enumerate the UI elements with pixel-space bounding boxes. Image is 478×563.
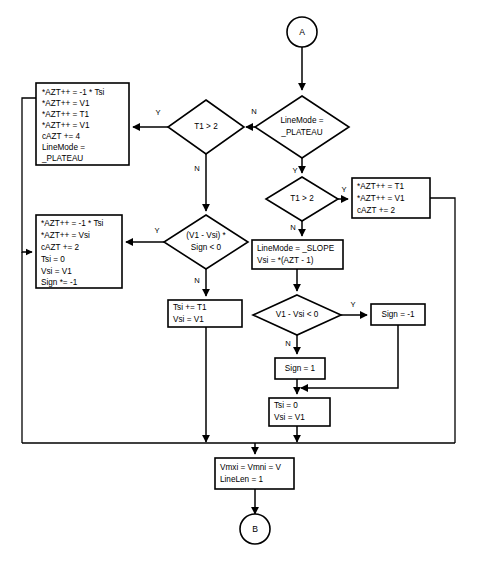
process-slope-block-line-3: Tsi = 0: [41, 255, 65, 264]
process-plateau-block-line-3: *AZT++ = V1: [42, 121, 90, 130]
process-tsi-plus-t1-line-1: Vsi = V1: [173, 315, 204, 324]
edge-right-bus-down: [430, 198, 455, 443]
terminal-a-label: A: [299, 27, 305, 37]
edge-plateau-feedback-left: [22, 98, 36, 252]
process-tsi-plus-t1-line-0: Tsi += T1: [173, 303, 207, 312]
terminal-a[interactable]: A: [287, 17, 317, 47]
process-slope-block-line-4: Vsi = V1: [41, 267, 72, 276]
edge-label-t1left-y: Y: [155, 108, 160, 117]
process-sign-neg1[interactable]: Sign = -1: [371, 304, 425, 325]
process-azt-t1-v1-line-2: cAZT += 2: [357, 206, 396, 215]
process-set-slope-line-1: Vsi = *(AZT - 1): [257, 256, 314, 265]
process-vmxi-linelen-line-1: LineLen = 1: [220, 475, 263, 484]
decision-linemode-plateau-line-1: _PLATEAU: [280, 128, 322, 137]
flowchart-page: A LineMode = _PLATEAU T1 > 2 T1 > 2 (V1 …: [0, 0, 478, 563]
decision-t1-gt2-left-line-0: T1 > 2: [194, 122, 218, 131]
process-plateau-block-line-0: *AZT++ = -1 * Tsi: [42, 88, 105, 97]
process-slope-block[interactable]: *AZT++ = -1 * Tsi *AZT++ = Vsi cAZT += 2…: [36, 215, 122, 288]
process-sign-1-line-0: Sign = 1: [285, 364, 316, 373]
edge-label-t1inner-y: Y: [341, 185, 346, 194]
terminal-b[interactable]: B: [240, 514, 270, 544]
process-sign-neg1-line-0: Sign = -1: [382, 310, 415, 319]
decision-v1-vsi-sign-line-0: (V1 - Vsi) *: [186, 231, 226, 240]
process-slope-block-line-2: cAZT += 2: [41, 243, 80, 252]
edge-label-v1vsi-y: Y: [350, 300, 355, 309]
edge-label-signcheck-n: N: [194, 276, 199, 285]
decision-v1-vsi-sign-shape: [164, 215, 248, 269]
process-tsi0-vsi-v1-line-0: Tsi = 0: [274, 401, 298, 410]
process-tsi0-vsi-v1-line-1: Vsi = V1: [274, 413, 305, 422]
process-vmxi-linelen-line-0: Vmxi = Vmni = V: [220, 463, 282, 472]
decision-linemode-plateau[interactable]: LineMode = _PLATEAU: [255, 96, 349, 158]
decision-t1-gt2-left[interactable]: T1 > 2: [168, 100, 244, 154]
edge-label-linemode-n: N: [251, 107, 256, 116]
edge-label-linemode-y: Y: [292, 166, 297, 175]
flowchart-canvas: A LineMode = _PLATEAU T1 > 2 T1 > 2 (V1 …: [0, 0, 478, 563]
process-set-slope[interactable]: LineMode = _SLOPE Vsi = *(AZT - 1): [252, 240, 343, 269]
process-plateau-block-line-6: _PLATEAU: [41, 154, 83, 163]
decision-t1-gt2-inner[interactable]: T1 > 2: [266, 177, 338, 221]
process-tsi-plus-t1[interactable]: Tsi += T1 Vsi = V1: [168, 300, 242, 327]
process-slope-block-line-1: *AZT++ = Vsi: [41, 231, 90, 240]
decision-v1-minus-vsi[interactable]: V1 - Vsi < 0: [253, 295, 341, 335]
decision-t1-gt2-inner-line-0: T1 > 2: [290, 194, 314, 203]
process-plateau-block-line-5: LineMode =: [42, 143, 85, 152]
edge-label-signcheck-y: Y: [154, 226, 159, 235]
process-slope-block-line-0: *AZT++ = -1 * Tsi: [41, 219, 104, 228]
terminal-b-label: B: [252, 524, 258, 534]
process-azt-t1-v1-line-1: *AZT++ = V1: [357, 194, 405, 203]
process-sign-1[interactable]: Sign = 1: [275, 358, 325, 379]
process-tsi0-vsi-v1[interactable]: Tsi = 0 Vsi = V1: [269, 398, 330, 426]
process-vmxi-linelen[interactable]: Vmxi = Vmni = V LineLen = 1: [215, 458, 294, 489]
edge-label-t1left-n: N: [194, 164, 199, 173]
decision-linemode-plateau-line-0: LineMode =: [280, 116, 323, 125]
process-plateau-block-line-4: cAZT += 4: [42, 132, 81, 141]
process-plateau-block-line-1: *AZT++ = V1: [42, 99, 90, 108]
decision-v1-vsi-sign-line-1: Sign < 0: [191, 243, 222, 252]
process-azt-t1-v1[interactable]: *AZT++ = T1 *AZT++ = V1 cAZT += 2: [352, 178, 430, 218]
decision-v1-minus-vsi-line-0: V1 - Vsi < 0: [276, 310, 319, 319]
edge-label-t1inner-n: N: [290, 223, 295, 232]
process-azt-t1-v1-line-0: *AZT++ = T1: [357, 182, 404, 191]
decision-linemode-plateau-shape: [255, 96, 349, 158]
process-set-slope-line-0: LineMode = _SLOPE: [257, 244, 335, 253]
process-plateau-block-line-2: *AZT++ = T1: [42, 110, 89, 119]
edge-label-v1vsi-n: N: [285, 339, 290, 348]
decision-v1-vsi-sign[interactable]: (V1 - Vsi) * Sign < 0: [164, 215, 248, 269]
process-slope-block-line-5: Sign *= -1: [41, 278, 78, 287]
process-plateau-block[interactable]: *AZT++ = -1 * Tsi *AZT++ = V1 *AZT++ = T…: [36, 83, 129, 165]
